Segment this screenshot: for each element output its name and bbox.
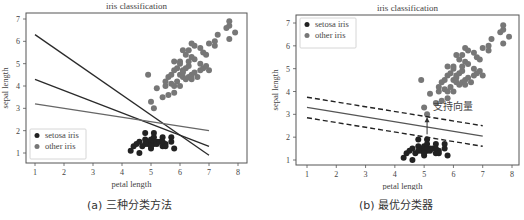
data-point: [171, 90, 177, 96]
data-point: [145, 72, 151, 78]
x-tick-label: 3: [91, 168, 95, 177]
chart-a: iris classification123456781234567petal …: [0, 0, 262, 190]
data-point: [142, 130, 148, 136]
y-tick-label: 3: [286, 110, 290, 119]
data-point: [480, 73, 486, 79]
data-point: [459, 52, 465, 58]
data-point: [418, 77, 424, 83]
y-tick-label: 2: [16, 127, 20, 136]
legend-label: other iris: [45, 141, 75, 151]
data-point: [154, 85, 160, 91]
chart-b: iris classification123456781234567petal …: [262, 0, 524, 190]
data-point: [465, 61, 471, 67]
x-tick-label: 4: [120, 168, 124, 177]
x-tick-label: 5: [422, 170, 426, 179]
data-point: [232, 29, 238, 35]
data-point: [415, 148, 421, 154]
y-axis-label: sepal length: [270, 69, 280, 111]
data-point: [171, 58, 177, 64]
data-point: [168, 134, 174, 140]
data-point: [445, 152, 451, 158]
annotation-label: 支持向量: [433, 100, 473, 112]
caption-a: (a) 三种分类方法: [87, 196, 172, 212]
y-tick-label: 7: [16, 15, 20, 24]
x-tick-label: 1: [305, 170, 309, 179]
data-point: [148, 99, 154, 105]
data-point: [486, 43, 492, 49]
data-point: [450, 89, 456, 95]
arrow-head-icon: [425, 117, 430, 122]
data-point: [212, 38, 218, 44]
x-axis-label: petal length: [383, 181, 424, 190]
line-classifier-3: [35, 104, 209, 131]
data-point: [160, 139, 166, 145]
x-axis-label: petal length: [112, 179, 153, 189]
data-point: [465, 47, 471, 53]
data-point: [165, 92, 171, 98]
data-point: [480, 45, 486, 51]
x-tick-label: 7: [207, 168, 211, 177]
data-point: [171, 146, 177, 152]
data-point: [206, 67, 212, 73]
y-tick-label: 6: [286, 42, 290, 51]
y-tick-label: 5: [16, 60, 20, 69]
chart-title: iris classification: [377, 3, 439, 13]
data-point: [226, 18, 232, 24]
data-point: [421, 104, 427, 110]
legend-marker-icon: [305, 22, 310, 27]
data-point: [427, 91, 433, 97]
data-point: [194, 74, 200, 80]
data-point: [142, 141, 148, 147]
y-tick-label: 2: [286, 133, 290, 142]
data-point: [500, 22, 506, 28]
data-point: [415, 136, 421, 142]
data-point: [450, 66, 456, 72]
x-tick-label: 7: [481, 170, 485, 179]
data-point: [180, 70, 186, 76]
legend-marker-icon: [305, 33, 310, 38]
panel-b: iris classification123456781234567petal …: [262, 0, 524, 220]
series-other-iris: [145, 18, 238, 111]
data-point: [186, 58, 192, 64]
data-point: [177, 61, 183, 67]
data-point: [409, 157, 415, 163]
legend-label: other iris: [315, 30, 345, 40]
x-tick-label: 2: [62, 168, 66, 177]
legend: setosa irisother iris: [300, 18, 356, 48]
data-point: [192, 43, 198, 49]
caption-b: (b) 最优分类器: [359, 196, 433, 212]
data-point: [189, 76, 195, 82]
y-tick-label: 1: [286, 156, 290, 165]
data-point: [151, 105, 157, 111]
data-point: [421, 150, 427, 156]
legend-marker-icon: [35, 133, 40, 138]
data-point: [468, 79, 474, 85]
data-point: [186, 47, 192, 53]
chart-title: iris classification: [106, 1, 168, 11]
y-tick-label: 4: [16, 82, 20, 91]
x-tick-label: 3: [364, 170, 368, 179]
y-tick-label: 1: [16, 149, 20, 158]
legend-label: setosa iris: [315, 19, 349, 29]
data-point: [445, 63, 451, 69]
y-axis-label: sepal length: [0, 67, 10, 109]
y-tick-label: 4: [286, 88, 290, 97]
x-tick-label: 5: [149, 168, 153, 177]
x-tick-label: 8: [236, 168, 240, 177]
x-tick-label: 8: [510, 170, 514, 179]
series-setosa-iris: [128, 130, 178, 156]
data-point: [433, 146, 439, 152]
data-point: [506, 34, 512, 40]
data-point: [177, 83, 183, 89]
data-point: [148, 143, 154, 149]
x-tick-label: 1: [33, 168, 37, 177]
data-point: [192, 56, 198, 62]
data-point: [477, 57, 483, 63]
data-point: [462, 82, 468, 88]
panel-a: iris classification123456781234567petal …: [0, 0, 262, 220]
data-point: [215, 32, 221, 38]
data-point: [489, 36, 495, 42]
x-tick-label: 4: [393, 170, 397, 179]
legend-label: setosa iris: [45, 130, 79, 140]
data-point: [136, 150, 142, 156]
